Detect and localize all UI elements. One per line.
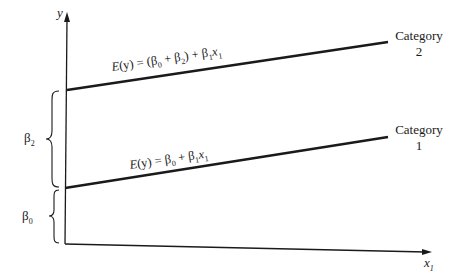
beta0-brace — [49, 190, 59, 243]
x-axis — [65, 244, 426, 252]
category-2-label: Category 2 — [388, 28, 450, 60]
beta0-label: β0 — [22, 208, 33, 226]
y-axis-arrow-icon — [64, 12, 70, 22]
category-1-label: Category 1 — [388, 122, 450, 154]
category-1-line — [65, 137, 388, 188]
y-axis — [65, 18, 67, 244]
beta2-label: β2 — [24, 130, 35, 148]
beta2-brace — [46, 91, 59, 187]
x-axis-label: x1 — [424, 255, 434, 273]
y-axis-label: y — [57, 5, 63, 21]
